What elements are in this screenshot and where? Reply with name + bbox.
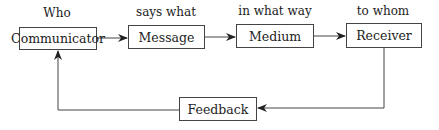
arrow-feedback-communicator xyxy=(58,51,179,110)
caption-to-whom: to whom xyxy=(333,4,433,18)
arrow-receiver-feedback xyxy=(258,48,384,108)
node-communicator: Communicator xyxy=(19,27,97,50)
caption-in-what-way: in what way xyxy=(225,4,325,18)
node-message: Message xyxy=(128,25,205,49)
node-receiver: Receiver xyxy=(346,23,422,48)
node-medium: Medium xyxy=(236,24,314,48)
caption-who: Who xyxy=(7,6,107,20)
caption-says-what: says what xyxy=(116,5,216,19)
node-feedback: Feedback xyxy=(179,97,257,121)
